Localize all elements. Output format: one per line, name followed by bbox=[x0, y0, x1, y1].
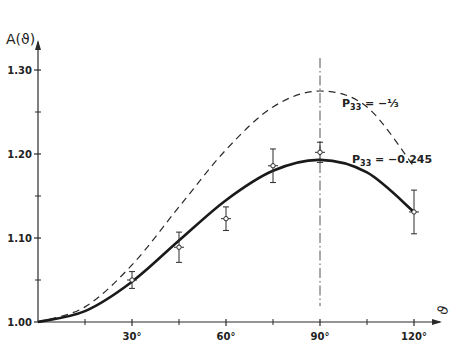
x-axis-arrow-icon bbox=[432, 319, 442, 325]
curve-p33-0245 bbox=[38, 160, 414, 322]
label-p33-0245: P33 = −0.245 bbox=[352, 153, 432, 168]
data-point bbox=[268, 149, 278, 183]
point-marker bbox=[130, 278, 134, 282]
data-point bbox=[409, 190, 419, 234]
x-tick-label: 120° bbox=[401, 331, 427, 342]
y-tick-label: 1.10 bbox=[7, 233, 32, 244]
y-tick-label: 1.00 bbox=[7, 317, 32, 328]
y-tick-label: 1.30 bbox=[7, 65, 32, 76]
y-axis-title: A(ϑ) bbox=[6, 31, 35, 47]
y-tick-label: 1.20 bbox=[7, 149, 32, 160]
chart: 1.001.101.201.3030°60°90°120°A(ϑ)ϑP33 = … bbox=[0, 0, 457, 350]
point-marker bbox=[412, 210, 416, 214]
x-tick-label: 30° bbox=[123, 331, 142, 342]
x-tick-label: 90° bbox=[311, 331, 330, 342]
data-point bbox=[221, 207, 231, 231]
point-marker bbox=[224, 216, 228, 220]
label-p33-one-third: P33 = −⅓ bbox=[342, 97, 399, 112]
point-marker bbox=[271, 164, 275, 168]
point-marker bbox=[177, 245, 181, 249]
x-axis-title: ϑ bbox=[434, 303, 452, 317]
y-axis-arrow-icon bbox=[35, 40, 41, 50]
x-tick-label: 60° bbox=[217, 331, 236, 342]
point-marker bbox=[318, 150, 322, 154]
